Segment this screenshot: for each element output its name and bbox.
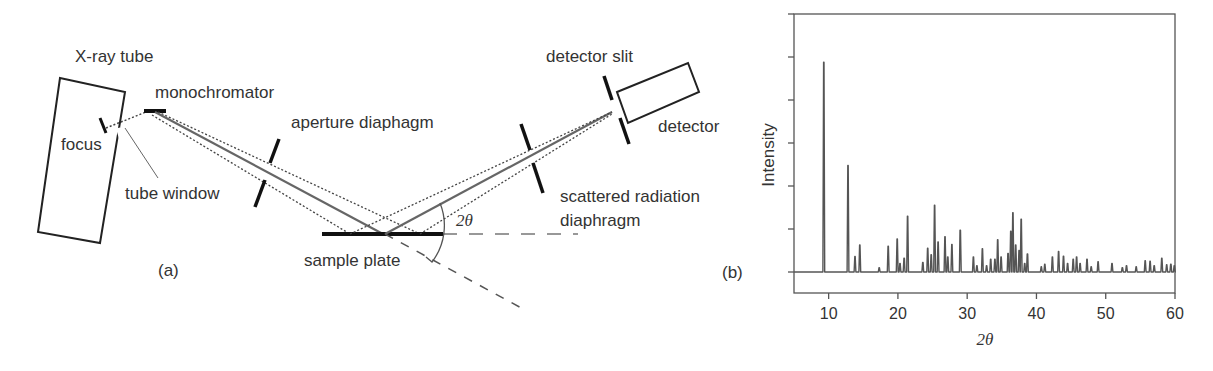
label-aperture-diaphragm: aperture diaphagm xyxy=(291,113,434,132)
aperture-diaphragm-icon xyxy=(270,139,279,163)
label-tube-window: tube window xyxy=(125,184,220,203)
label-focus: focus xyxy=(61,135,102,154)
x-tick-label: 10 xyxy=(820,305,838,322)
label-sample-plate: sample plate xyxy=(304,251,400,270)
plot-frame xyxy=(794,14,1175,293)
detector-icon xyxy=(617,63,699,123)
x-tick-label: 50 xyxy=(1097,305,1115,322)
x-axis-ticks: 102030405060 xyxy=(820,293,1184,322)
label-detector-slit: detector slit xyxy=(546,47,633,66)
x-axis-label: 2θ xyxy=(977,330,994,349)
label-detector: detector xyxy=(658,117,720,136)
x-tick-label: 60 xyxy=(1166,305,1184,322)
detector-slit-icon xyxy=(604,76,612,100)
label-xray-tube: X-ray tube xyxy=(75,47,153,66)
x-tick-label: 20 xyxy=(889,305,907,322)
label-scattered-diaphragm: diaphragm xyxy=(560,211,640,230)
label-scattered-radiation: scattered radiation xyxy=(560,187,700,206)
xrd-chart: 102030405060 Intensity 2θ (b) xyxy=(722,14,1184,349)
scattered-radiation-diaphragm-icon xyxy=(521,124,530,150)
label-monochromator: monochromator xyxy=(155,83,274,102)
xray-tube-icon xyxy=(38,78,125,243)
panel-label-b: (b) xyxy=(722,263,743,282)
figure-canvas: X-ray tube focus tube window monochromat… xyxy=(0,0,1213,371)
diffractometer-diagram: X-ray tube focus tube window monochromat… xyxy=(38,47,720,310)
focus-icon xyxy=(100,118,106,133)
label-two-theta: 2θ xyxy=(456,211,473,230)
y-axis-label: Intensity xyxy=(759,123,778,187)
diffraction-pattern-line xyxy=(794,62,1175,272)
panel-label-a: (a) xyxy=(158,261,179,280)
x-tick-label: 30 xyxy=(958,305,976,322)
x-tick-label: 40 xyxy=(1028,305,1046,322)
y-axis-ticks xyxy=(788,14,794,272)
